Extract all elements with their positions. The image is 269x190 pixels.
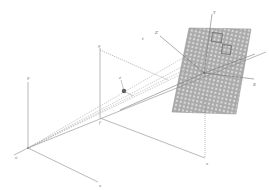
camera-axis <box>121 80 124 91</box>
image-frame-bottom-label: x <box>206 161 209 166</box>
plane-origin-point <box>203 72 205 74</box>
world-origin-label: o <box>15 155 18 160</box>
plane-up-axis-label: Y <box>213 10 216 15</box>
image-frame-top-label: y <box>97 43 101 48</box>
plane-left-label: t <box>142 36 144 41</box>
world-x-axis-label: x <box>99 183 102 188</box>
plane-back-axis-label: Z <box>154 30 158 35</box>
plane-right-axis-label: X <box>252 82 256 87</box>
projection-diagram: o y x y f x z Y X Z t <box>0 0 269 190</box>
image-frame-origin-label: f <box>98 120 102 125</box>
world-up-axis-label: y <box>26 75 30 80</box>
camera-axis-label: z <box>118 75 122 80</box>
